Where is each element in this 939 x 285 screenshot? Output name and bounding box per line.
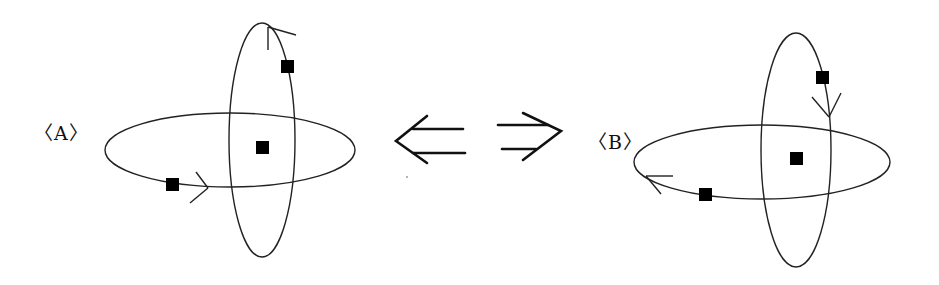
panel-b-vertical-orbit xyxy=(761,33,831,267)
panel-b-horizontal-direction-arrow-icon xyxy=(646,176,673,194)
panel-b-horizontal-orbit xyxy=(634,125,890,199)
panel-b-vertical-orbit-body xyxy=(816,71,829,84)
left-double-arrow-icon xyxy=(396,116,465,163)
right-double-arrow-icon xyxy=(498,113,561,160)
stray-dot xyxy=(406,176,408,178)
orbit-diagram xyxy=(0,0,939,285)
panel-a-label: 〈A〉 xyxy=(34,118,89,145)
double-arrow-connector xyxy=(396,113,561,163)
panel-a-vertical-orbit-body xyxy=(281,60,294,73)
panel-a-horizontal-direction-arrow-icon xyxy=(190,172,208,203)
panel-a xyxy=(105,23,355,257)
panel-b-horizontal-orbit-body xyxy=(699,188,712,201)
panel-a-central-body xyxy=(256,141,269,154)
panel-b-vertical-direction-arrow-icon xyxy=(812,93,841,117)
panel-a-vertical-orbit xyxy=(229,23,295,257)
panel-b xyxy=(634,33,890,267)
panel-a-horizontal-orbit-body xyxy=(166,178,179,191)
panel-b-label: 〈B〉 xyxy=(588,127,643,154)
panel-b-central-body xyxy=(790,152,803,165)
panel-b-bodies xyxy=(699,71,829,201)
